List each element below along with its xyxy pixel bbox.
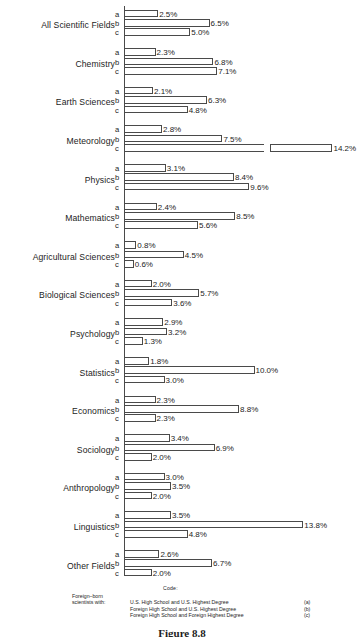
bar-row: b6.8% (115, 57, 364, 66)
bar-segment (124, 444, 215, 452)
bar-row: a2.4% (115, 202, 364, 211)
bar-segment-after-break (270, 144, 332, 152)
series-code-b: b (115, 366, 123, 375)
bar-segment (124, 299, 172, 307)
category-label: Sociology (77, 445, 115, 455)
category-label: Physics (85, 175, 115, 185)
figure-caption: Figure 8.8 (0, 627, 364, 637)
chart-group: Linguisticsa3.5%b13.8%c4.8% (0, 508, 364, 547)
category-label: Anthropology (63, 483, 115, 493)
bar-value-label: 4.8% (189, 105, 207, 114)
bar-value-label: 6.9% (216, 443, 234, 452)
bar-segment (124, 106, 188, 114)
legend-entry-key: (b) (304, 606, 310, 613)
bar-rows: a2.3%b6.8%c7.1% (115, 48, 364, 76)
legend-entry-key: (c) (304, 612, 310, 619)
bar-value-label: 14.2% (333, 144, 356, 153)
bar-row: b7.5% (115, 134, 364, 143)
bar-value-label: 6.3% (208, 96, 226, 105)
bar-value-label: 4.5% (185, 250, 203, 259)
bar-row: c2.0% (115, 491, 364, 500)
bar-segment (124, 48, 156, 56)
bar-segment (124, 337, 143, 345)
bar-rows: a2.0%b5.7%c3.6% (115, 279, 364, 307)
bar-value-label: 1.3% (144, 337, 162, 346)
bar-segment (124, 482, 171, 490)
bar-row: b6.9% (115, 443, 364, 452)
bar-value-label: 2.3% (157, 48, 175, 57)
series-code-a: a (115, 202, 123, 211)
bar-row: a3.4% (115, 434, 364, 443)
chart-group: Other Fieldsa2.6%b6.7%c2.0% (0, 546, 364, 585)
series-code-b: b (115, 19, 123, 28)
series-code-b: b (115, 57, 123, 66)
legend-subject-line-2: scientists with: (72, 599, 105, 605)
chart-group: Biological Sciencesa2.0%b5.7%c3.6% (0, 276, 364, 315)
category-label: Linguistics (74, 522, 115, 532)
bar-value-label: 8.5% (236, 212, 254, 221)
bar-segment (124, 550, 159, 558)
bar-segment (124, 453, 152, 461)
category-label: Other Fields (67, 561, 115, 571)
series-code-c: c (115, 182, 123, 191)
bar-row: a1.8% (115, 356, 364, 365)
bar-value-label: 3.0% (166, 472, 184, 481)
bar-segment (124, 521, 303, 529)
bar-segment (124, 58, 213, 66)
bar-row: b13.8% (115, 520, 364, 529)
bar-value-label: 9.6% (250, 182, 268, 191)
bar-rows: a2.4%b8.5%c5.6% (115, 202, 364, 230)
series-code-b: b (115, 134, 123, 143)
bar-value-label: 0.6% (135, 260, 153, 269)
bar-row: c4.8% (115, 105, 364, 114)
bar-segment (124, 280, 152, 288)
bar-value-label: 7.1% (218, 67, 236, 76)
bar-row: a2.5% (115, 9, 364, 18)
bar-row: c9.6% (115, 182, 364, 191)
bar-row: c2.0% (115, 452, 364, 461)
series-code-b: b (115, 96, 123, 105)
bar-value-label: 5.6% (199, 221, 217, 230)
chart-group: Anthropologya3.0%b3.5%c2.0% (0, 469, 364, 508)
bar-value-label: 2.0% (153, 568, 171, 577)
legend-entry-key: (a) (304, 599, 310, 606)
chart-group: Chemistrya2.3%b6.8%c7.1% (0, 45, 364, 84)
bar-segment (124, 328, 167, 336)
bar-segment (124, 251, 184, 259)
series-code-b: b (115, 443, 123, 452)
bar-value-label: 6.5% (211, 19, 229, 28)
bar-segment (124, 511, 171, 519)
bar-value-label: 2.1% (154, 86, 172, 95)
bar-rows: a2.1%b6.3%c4.8% (115, 86, 364, 114)
bar-row: a2.8% (115, 125, 364, 134)
bar-segment (124, 241, 136, 249)
legend-title: Code: (163, 585, 178, 591)
series-code-c: c (115, 568, 123, 577)
bar-value-label: 7.5% (223, 134, 241, 143)
bar-segment (124, 96, 207, 104)
series-code-c: c (115, 414, 123, 423)
bar-value-label: 0.8% (137, 241, 155, 250)
bar-value-label: 4.8% (189, 530, 207, 539)
bar-row: b6.3% (115, 96, 364, 105)
bar-rows: a2.8%b7.5%c14.2% (115, 125, 364, 153)
chart-group: Statisticsa1.8%b10.0%c3.0% (0, 353, 364, 392)
bar-value-label: 8.8% (240, 405, 258, 414)
bar-row: a2.6% (115, 549, 364, 558)
bar-value-label: 3.6% (173, 298, 191, 307)
bar-segment (124, 135, 222, 143)
bar-row: b6.5% (115, 18, 364, 27)
bar-segment (124, 492, 152, 500)
bar-value-label: 3.0% (166, 375, 184, 384)
series-code-b: b (115, 520, 123, 529)
category-label: Statistics (80, 368, 115, 378)
bar-segment (124, 405, 239, 413)
legend-subject: Foreign–born scientists with: (72, 593, 105, 606)
bar-chart-plot: All Scientific Fieldsa2.5%b6.5%c5.0%Chem… (0, 6, 364, 572)
legend-entry-text: Foreign High School and Foreign Highest … (130, 612, 244, 619)
bar-row: b8.5% (115, 211, 364, 220)
bar-row: a3.5% (115, 511, 364, 520)
bar-segment (124, 289, 199, 297)
bar-segment (124, 212, 235, 220)
bar-value-label: 2.0% (153, 453, 171, 462)
